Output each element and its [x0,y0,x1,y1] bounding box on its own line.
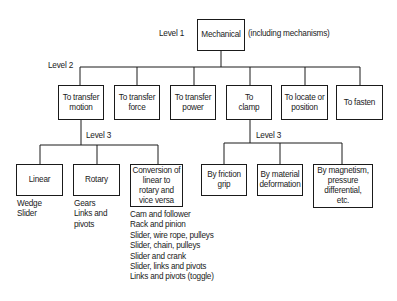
linear-example: Slider [17,209,42,219]
level1-label: Level 1 [159,29,184,39]
linear-examples: Wedge Slider [17,199,42,220]
conversion-example: Links and pivots (toggle) [130,272,214,282]
node-locate-position: To locate or position [281,85,328,120]
node-mechanical: Mechanical [197,19,245,51]
node-transfer-force: To transfer force [114,85,160,120]
node-friction-grip: By friction grip [201,164,247,196]
conversion-examples: Cam and follower Rack and pinion Slider,… [130,210,214,283]
rotary-example: Gears [74,199,107,209]
node-magnetism-pressure: By magnetism, pressure differential, etc… [313,164,373,208]
node-conversion: Conversion of linear to rotary and vice … [130,164,183,207]
conversion-example: Slider, wire rope, pulleys [130,231,214,241]
node-transfer-motion: To transfer motion [58,85,104,120]
rotary-example: pivots [74,220,107,230]
node-linear: Linear [16,164,63,196]
node-material-deformation: By material deformation [257,164,303,196]
conversion-example: Slider, chain, pulleys [130,241,214,251]
level2-label: Level 2 [48,61,73,71]
conversion-example: Rack and pinion [130,220,214,230]
level1-note: (including mechanisms) [248,29,330,39]
conversion-example: Cam and follower [130,210,214,220]
node-rotary: Rotary [73,164,120,196]
rotary-example: Links and [74,209,107,219]
level3-motion-label: Level 3 [86,131,111,141]
conversion-example: Slider, links and pivots [130,262,214,272]
conversion-example: Slider and crank [130,252,214,262]
level3-clamp-label: Level 3 [256,131,281,141]
rotary-examples: Gears Links and pivots [74,199,107,230]
linear-example: Wedge [17,199,42,209]
node-transfer-power: To transfer power [170,85,216,120]
node-fasten: To fasten [336,85,383,120]
node-clamp: To clamp [226,85,272,120]
